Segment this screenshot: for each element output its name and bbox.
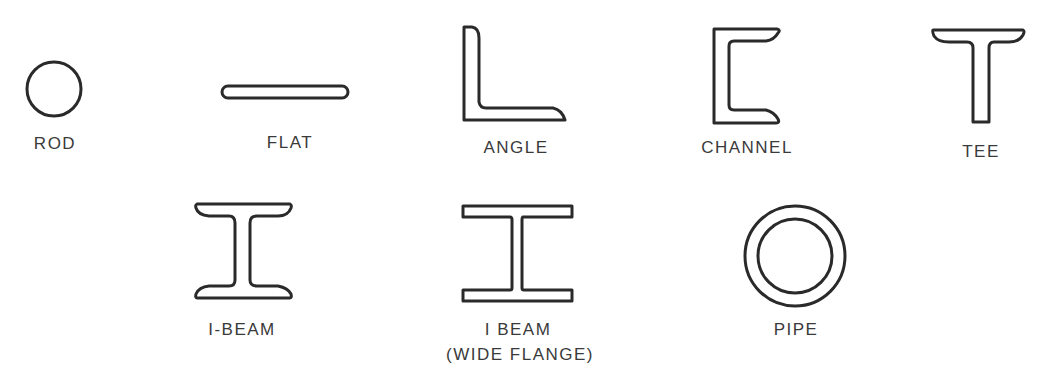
i-beam-shape-icon	[196, 204, 292, 298]
tee-shape-icon	[933, 30, 1024, 122]
rod-label: ROD	[34, 132, 76, 156]
i-beam-label: I-BEAM	[208, 318, 276, 342]
flat-label: FLAT	[267, 131, 313, 155]
angle-label: ANGLE	[483, 136, 548, 160]
wide-flange-shape-icon	[463, 206, 572, 301]
flat-shape-icon	[222, 86, 348, 98]
pipe-label: PIPE	[774, 318, 819, 342]
pipe-shape-icon	[745, 206, 845, 306]
angle-shape-icon	[464, 27, 565, 120]
rod-shape-icon	[27, 62, 81, 116]
wide-flange-sublabel: (WIDE FLANGE)	[446, 343, 594, 367]
channel-label: CHANNEL	[701, 136, 793, 160]
tee-label: TEE	[962, 140, 1000, 164]
channel-shape-icon	[714, 29, 779, 123]
wide-flange-label: I BEAM	[485, 318, 552, 342]
